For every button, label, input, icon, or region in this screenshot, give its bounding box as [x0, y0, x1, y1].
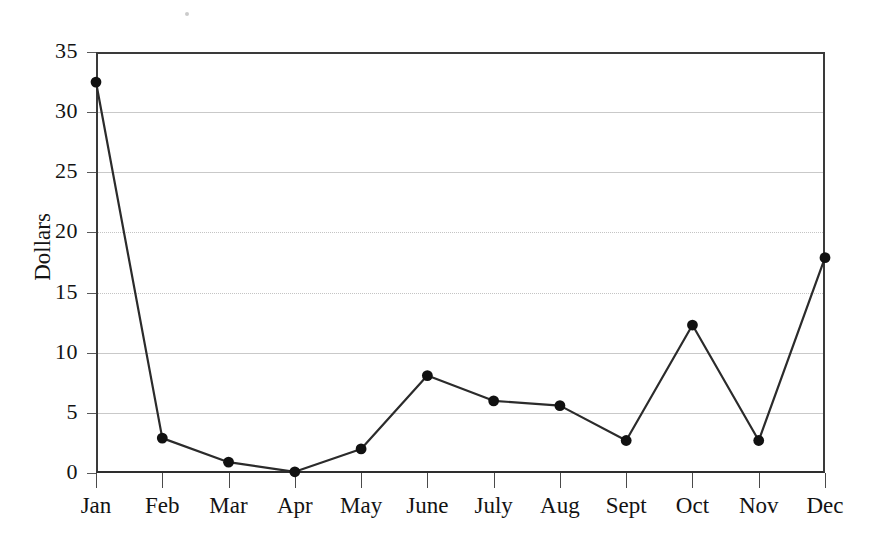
- line-chart: Dollars 05101520253035 JanFebMarAprMayJu…: [0, 0, 877, 545]
- series-layer: [0, 0, 877, 545]
- data-point-sept: [621, 435, 632, 446]
- series-line-dollars: [96, 82, 825, 472]
- data-point-nov: [753, 435, 764, 446]
- data-point-mar: [223, 457, 234, 468]
- data-point-oct: [687, 320, 698, 331]
- series-markers-dollars: [91, 77, 831, 478]
- data-point-aug: [555, 400, 566, 411]
- data-point-apr: [289, 466, 300, 477]
- data-point-feb: [157, 433, 168, 444]
- data-point-july: [488, 395, 499, 406]
- data-point-dec: [820, 252, 831, 263]
- data-point-may: [356, 444, 367, 455]
- data-point-jan: [91, 77, 102, 88]
- data-point-june: [422, 370, 433, 381]
